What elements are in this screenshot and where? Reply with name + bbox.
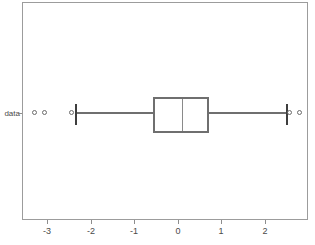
x-axis-tick-label: -1 (122, 226, 146, 237)
whisker-line-upper (209, 112, 286, 114)
x-axis-tick-label: 2 (253, 226, 277, 237)
box-rectangle (153, 97, 209, 133)
x-axis-tick-label: 0 (166, 226, 190, 237)
outlier-point (297, 110, 302, 115)
x-axis-tick-label: 1 (209, 226, 233, 237)
outlier-point (32, 110, 37, 115)
x-axis-tick-label: -3 (35, 226, 59, 237)
plot-area (23, 3, 307, 219)
x-axis-tick (91, 220, 92, 224)
x-axis-tick (134, 220, 135, 224)
plot-frame (22, 2, 308, 220)
boxplot-figure: data -3-2-1012 (0, 0, 315, 245)
outlier-point (287, 110, 292, 115)
x-axis-tick-label: -2 (79, 226, 103, 237)
x-axis-tick (221, 220, 222, 224)
x-axis-tick (178, 220, 179, 224)
x-axis-tick (265, 220, 266, 224)
outlier-point (42, 110, 47, 115)
whisker-line-lower (75, 112, 153, 114)
median-line (182, 99, 183, 131)
whisker-cap-lower (75, 104, 77, 125)
x-axis-tick (47, 220, 48, 224)
y-axis-category-label: data (0, 108, 20, 120)
outlier-point (69, 110, 74, 115)
